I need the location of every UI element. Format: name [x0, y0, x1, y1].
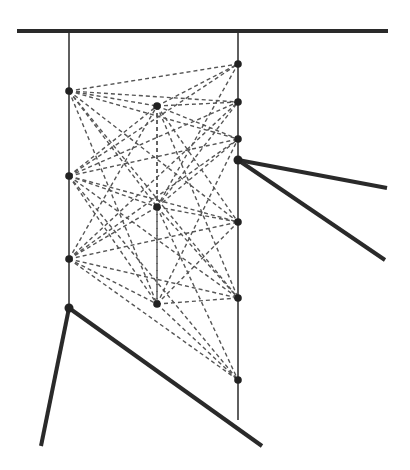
node-r2 — [234, 98, 242, 106]
node-m3 — [153, 300, 161, 308]
node-l3 — [65, 255, 73, 263]
dashed-cable — [69, 64, 238, 176]
dashed-cable — [69, 176, 157, 207]
dashed-cable — [157, 207, 238, 380]
dashed-cable — [157, 102, 238, 106]
dashed-cables — [69, 64, 238, 380]
dashed-cable — [69, 259, 157, 304]
dashed-cable — [157, 298, 238, 304]
node-r5 — [234, 218, 242, 226]
node-r1 — [234, 60, 242, 68]
thick-strut — [41, 308, 69, 446]
dashed-cable — [69, 259, 238, 298]
node-r7 — [234, 376, 242, 384]
dashed-cable — [69, 64, 238, 91]
node-l1 — [65, 87, 73, 95]
dashed-cable — [157, 139, 238, 207]
node-r6 — [234, 294, 242, 302]
dashed-cable — [69, 176, 157, 304]
node-m1 — [153, 102, 161, 110]
dashed-cable — [69, 259, 238, 380]
dashed-cable — [69, 91, 157, 304]
dashed-cable — [69, 207, 157, 259]
node-m2 — [153, 203, 161, 211]
node-l2 — [65, 172, 73, 180]
diagram-svg — [0, 0, 410, 470]
dashed-cable — [157, 304, 238, 380]
dashed-cable — [157, 106, 238, 298]
dashed-cable — [69, 91, 238, 139]
dashed-cable — [69, 91, 238, 102]
truss-diagram — [0, 0, 410, 470]
node-r3 — [234, 135, 242, 143]
dashed-cable — [69, 106, 157, 259]
dashed-cable — [69, 106, 157, 176]
node-r4 — [234, 156, 243, 165]
node-l4 — [65, 304, 74, 313]
